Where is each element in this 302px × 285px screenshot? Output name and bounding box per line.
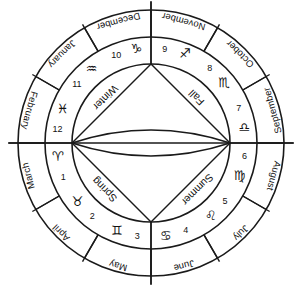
sign-glyph-gemini: ♊ (111, 223, 123, 238)
season-label-spring: Spring (89, 175, 119, 205)
sign-glyph-sagittarius: ♐ (179, 46, 191, 61)
zodiac-wheel-diagram: MarchAprilMayJuneJulyAugustSeptemberOcto… (0, 0, 302, 285)
sign-glyph-pisces: ♓ (57, 101, 69, 116)
sign-glyph-cancer: ♋ (160, 228, 172, 243)
month-label-june: June (172, 258, 195, 274)
segment-tick-aquarius (83, 24, 99, 51)
house-number-2: 2 (90, 211, 95, 221)
vesica-arc-lower (72, 143, 230, 156)
house-number-4: 4 (183, 225, 188, 235)
segment-tick-gemini (83, 235, 99, 262)
house-number-12: 12 (53, 124, 63, 134)
sign-glyph-taurus: ♉ (72, 194, 84, 209)
segment-tick-leo (204, 235, 220, 262)
sign-glyph-libra: ♎ (239, 120, 251, 135)
month-label-august: August (265, 160, 284, 192)
sign-glyph-virgo: ♍ (233, 168, 245, 183)
season-labels: WinterFallSummerSpring (89, 83, 216, 209)
month-label-may: May (108, 258, 129, 273)
house-number-11: 11 (72, 79, 81, 89)
month-label-july: July (231, 223, 251, 243)
season-label-fall: Fall (186, 88, 206, 108)
segment-tick-pisces (32, 75, 59, 91)
diamond-edge-left-top (72, 64, 151, 143)
segment-tick-scorpio (243, 75, 270, 91)
house-number-3: 3 (135, 231, 140, 241)
zodiac-wheel-canvas: MarchAprilMayJuneJulyAugustSeptemberOcto… (0, 0, 302, 285)
season-label-summer: Summer (179, 172, 216, 209)
month-label-april: April (50, 222, 72, 244)
house-number-6: 6 (242, 151, 247, 161)
house-number-9: 9 (162, 44, 167, 54)
sign-and-house-labels: 1♈2♉3♊4♋5♌6♍7♎8♏9♐10♑11♒12♓ (52, 41, 250, 243)
house-number-8: 8 (207, 63, 212, 73)
sign-glyph-aquarius: ♒ (86, 61, 98, 76)
house-number-5: 5 (223, 196, 228, 206)
segment-tick-sagittarius (204, 24, 220, 51)
house-number-1: 1 (61, 172, 66, 182)
vesica-arc-upper (72, 130, 230, 143)
segment-tick-taurus (32, 196, 59, 212)
segment-tick-virgo (243, 196, 270, 212)
house-number-10: 10 (111, 50, 121, 60)
sign-glyph-capricorn: ♑ (130, 41, 142, 56)
diamond-edge-bottom-left (72, 143, 151, 222)
sign-glyph-aries: ♈ (52, 149, 64, 164)
house-number-7: 7 (236, 103, 241, 113)
sign-glyph-scorpio: ♏ (219, 75, 231, 90)
diamond-edge-right-bottom (151, 143, 230, 222)
month-label-march: March (19, 162, 37, 191)
sign-glyph-leo: ♌ (205, 208, 217, 223)
